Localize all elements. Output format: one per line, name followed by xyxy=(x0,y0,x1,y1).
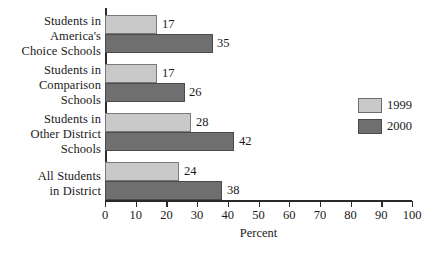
x-tick-label-40: 40 xyxy=(222,208,235,223)
bar-all-students-2000 xyxy=(105,181,222,200)
bar-value-all-students-1999: 24 xyxy=(184,162,197,181)
x-tick-70 xyxy=(320,201,321,207)
bar-chart: Students in America's Choice Schools Stu… xyxy=(0,0,436,267)
category-label-americas-choice: Students in America's Choice Schools xyxy=(0,14,101,59)
x-tick-label-0: 0 xyxy=(102,208,108,223)
x-tick-label-80: 80 xyxy=(344,208,357,223)
bar-value-all-students-2000: 38 xyxy=(227,181,240,200)
x-tick-label-90: 90 xyxy=(375,208,388,223)
legend: 1999 2000 xyxy=(358,98,412,140)
bar-other-district-1999 xyxy=(105,113,191,132)
category-label-comparison: Students in Comparison Schools xyxy=(0,63,101,108)
bar-value-other-district-1999: 28 xyxy=(196,113,209,132)
x-tick-30 xyxy=(197,201,198,207)
legend-item-1999: 1999 xyxy=(358,98,412,113)
x-tick-0 xyxy=(105,201,106,207)
x-tick-80 xyxy=(351,201,352,207)
x-tick-label-10: 10 xyxy=(129,208,142,223)
bar-value-americas-choice-2000: 35 xyxy=(217,34,230,53)
x-tick-label-50: 50 xyxy=(252,208,265,223)
category-label-other-district: Students in Other District Schools xyxy=(0,112,101,157)
bar-americas-choice-2000 xyxy=(105,34,213,53)
legend-item-2000: 2000 xyxy=(358,119,412,134)
bar-americas-choice-1999 xyxy=(105,15,157,34)
category-label-all-students: All Students in District xyxy=(0,169,101,199)
x-tick-100 xyxy=(412,201,413,207)
bar-value-comparison-2000: 26 xyxy=(189,83,202,102)
legend-swatch-1999-icon xyxy=(358,98,382,113)
legend-label-1999: 1999 xyxy=(387,98,412,113)
bar-value-comparison-1999: 17 xyxy=(162,64,175,83)
x-tick-50 xyxy=(259,201,260,207)
x-axis-title: Percent xyxy=(105,226,412,241)
bar-other-district-2000 xyxy=(105,132,234,151)
x-tick-label-60: 60 xyxy=(283,208,296,223)
bar-comparison-1999 xyxy=(105,64,157,83)
bar-value-americas-choice-1999: 17 xyxy=(162,15,175,34)
bar-value-other-district-2000: 42 xyxy=(239,132,252,151)
x-tick-20 xyxy=(166,201,167,207)
x-tick-90 xyxy=(381,201,382,207)
bar-comparison-2000 xyxy=(105,83,185,102)
bar-all-students-1999 xyxy=(105,162,179,181)
legend-label-2000: 2000 xyxy=(387,119,412,134)
x-tick-label-100: 100 xyxy=(403,208,422,223)
x-tick-60 xyxy=(289,201,290,207)
x-tick-label-30: 30 xyxy=(191,208,204,223)
category-label-column: Students in America's Choice Schools Stu… xyxy=(0,0,101,267)
x-tick-10 xyxy=(136,201,137,207)
x-tick-40 xyxy=(228,201,229,207)
x-tick-label-70: 70 xyxy=(314,208,327,223)
legend-swatch-2000-icon xyxy=(358,119,382,134)
x-tick-label-20: 20 xyxy=(160,208,173,223)
